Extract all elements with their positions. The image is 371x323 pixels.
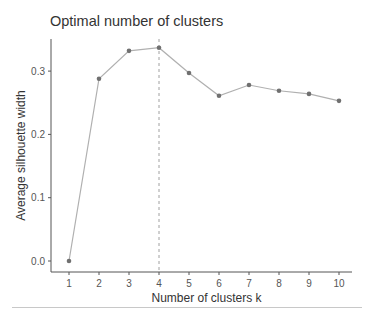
x-axis-label: Number of clusters k [151,291,262,305]
x-tick-label: 9 [306,278,312,289]
y-tick-label: 0.1 [31,192,45,203]
data-point [97,76,102,81]
data-point [337,99,342,104]
y-tick-label: 0.0 [31,256,45,267]
data-point [247,83,252,88]
x-tick-label: 10 [333,278,345,289]
divider [12,307,362,308]
x-tick-label: 4 [156,278,162,289]
x-tick-label: 5 [186,278,192,289]
silhouette-chart: 0.00.10.20.312345678910Number of cluster… [0,0,371,323]
x-tick-label: 1 [66,278,72,289]
data-point [277,88,282,93]
data-point [127,49,132,54]
data-point [157,45,162,50]
data-point [217,93,222,98]
x-tick-label: 8 [276,278,282,289]
data-point [187,71,192,76]
x-tick-label: 2 [96,278,102,289]
data-point [67,259,72,264]
y-tick-label: 0.3 [31,66,45,77]
y-tick-label: 0.2 [31,129,45,140]
x-tick-label: 3 [126,278,132,289]
y-axis-label: Average silhouette width [14,90,28,221]
silhouette-line [69,48,339,261]
x-tick-label: 6 [216,278,222,289]
data-point [307,92,312,97]
x-tick-label: 7 [246,278,252,289]
